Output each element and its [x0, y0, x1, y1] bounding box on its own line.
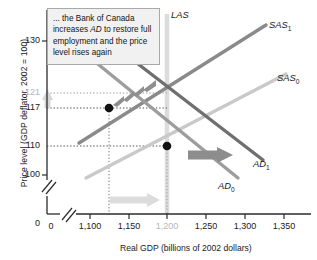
y-tick-121: 121: [14, 87, 40, 97]
ad0-label-text: AD: [218, 180, 231, 191]
x-axis-title: Real GDP (billions of 2002 dollars): [120, 243, 252, 253]
las-label-text: LAS: [171, 9, 189, 20]
equilibrium-point-b: [163, 142, 172, 151]
sas0-label: SAS0: [277, 72, 299, 85]
x-tick-0: 0: [34, 221, 68, 231]
equilibrium-point-a: [105, 104, 114, 113]
x-tick-1100: 1,100: [73, 221, 107, 231]
ad0-label-sub: 0: [231, 186, 235, 193]
real-gdp-right-arrow: [110, 193, 160, 207]
x-tick-1150: 1,150: [112, 221, 146, 231]
las-label: LAS: [171, 9, 189, 20]
ad1-label-text: AD: [253, 158, 266, 169]
x-tick-marks: [90, 214, 284, 219]
sas1-label-sub: 1: [288, 25, 292, 32]
ad0-curve: [88, 56, 238, 178]
y-tick-100: 100: [14, 169, 40, 179]
sas1-label-text: SAS: [269, 19, 288, 30]
x-tick-1250: 1,250: [189, 221, 223, 231]
ad1-label: AD1: [253, 158, 270, 171]
y-tick-130: 130: [14, 35, 40, 45]
ad-shift-right-arrow: [188, 147, 233, 163]
annotation-callout: ... the Bank of Canada increases AD to r…: [47, 8, 160, 65]
sas1-label: SAS1: [269, 19, 291, 32]
chart-figure: Price level (GDP deflator, 2002 = 100) R…: [0, 0, 317, 260]
sas0-label-text: SAS: [277, 72, 296, 83]
x-tick-1200: 1,200: [150, 221, 184, 231]
x-tick-1300: 1,300: [228, 221, 262, 231]
annotation-italic-ad: AD: [90, 25, 101, 34]
sas0-label-sub: 0: [296, 78, 300, 85]
ad1-label-sub: 1: [266, 164, 270, 171]
y-tick-110: 110: [14, 140, 40, 150]
x-tick-1350: 1,350: [267, 221, 301, 231]
ad0-label: AD0: [218, 180, 235, 193]
y-tick-117: 117: [14, 102, 40, 112]
